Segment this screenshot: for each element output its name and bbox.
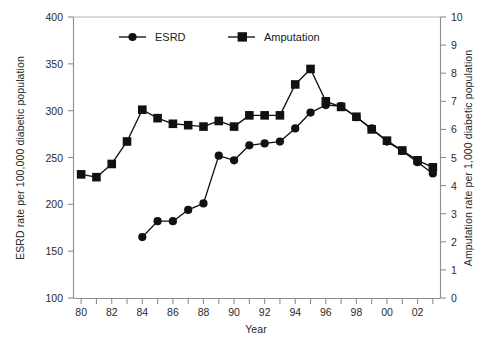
data-point-marker — [276, 111, 285, 120]
x-axis-tick-label: 00 — [381, 306, 393, 318]
series-amputation — [77, 65, 437, 182]
legend-label-esrd: ESRD — [155, 31, 186, 43]
x-axis-tick-label: 92 — [259, 306, 271, 318]
data-point-marker — [230, 156, 238, 164]
data-point-marker — [261, 139, 269, 147]
legend-entry-esrd: ESRD — [119, 31, 186, 43]
left-axis-tick-label: 300 — [45, 105, 63, 117]
data-point-marker — [230, 122, 239, 131]
data-point-marker — [429, 163, 438, 172]
data-point-marker — [352, 112, 361, 121]
data-point-marker — [215, 152, 223, 160]
data-point-marker — [184, 121, 193, 130]
data-point-marker — [154, 217, 162, 225]
data-point-marker — [398, 146, 407, 155]
right-axis-tick-label: 9 — [451, 39, 457, 51]
x-axis-tick-label: 82 — [106, 306, 118, 318]
data-point-marker — [367, 125, 376, 134]
dual-axis-line-chart: 100150200250300350400 012345678910 80828… — [0, 0, 489, 350]
data-point-marker — [92, 173, 101, 182]
x-axis-tick-label: 84 — [136, 306, 148, 318]
data-point-marker — [77, 170, 86, 179]
right-axis-tick-label: 1 — [451, 264, 457, 276]
x-axis-tick-label: 02 — [412, 306, 424, 318]
right-axis: 012345678910 — [441, 11, 463, 304]
x-axis-tick-label: 96 — [320, 306, 332, 318]
data-point-marker — [413, 156, 422, 165]
x-axis-tick-label: 90 — [228, 306, 240, 318]
data-point-marker — [291, 124, 299, 132]
data-point-marker — [199, 122, 208, 131]
data-point-marker — [169, 119, 178, 128]
plot-frame — [74, 17, 441, 299]
data-point-marker — [184, 206, 192, 214]
x-axis-tick-label: 98 — [351, 306, 363, 318]
data-point-marker — [123, 137, 132, 146]
legend-marker-circle-icon — [128, 33, 136, 41]
right-axis-tick-label: 0 — [451, 292, 457, 304]
right-axis-tick-label: 8 — [451, 67, 457, 79]
data-point-marker — [138, 105, 147, 114]
x-axis-tick-label: 80 — [75, 306, 87, 318]
left-axis-tick-label: 200 — [45, 198, 63, 210]
series-esrd — [138, 101, 437, 241]
legend-entry-amputation: Amputation — [228, 31, 320, 43]
left-axis-tick-label: 150 — [45, 245, 63, 257]
data-point-marker — [153, 114, 162, 123]
chart-legend: ESRD Amputation — [119, 31, 320, 43]
data-point-marker — [245, 111, 254, 120]
series-line-amputation — [81, 69, 433, 177]
data-point-marker — [306, 65, 315, 74]
data-point-marker — [214, 117, 223, 126]
right-axis-tick-label: 6 — [451, 123, 457, 135]
data-point-marker — [169, 217, 177, 225]
left-axis-tick-label: 400 — [45, 11, 63, 23]
data-point-marker — [245, 141, 253, 149]
data-point-marker — [337, 103, 346, 112]
right-axis-tick-label: 5 — [451, 152, 457, 164]
data-point-marker — [107, 160, 116, 169]
x-axis-tick-label: 86 — [167, 306, 179, 318]
data-point-marker — [260, 111, 269, 120]
data-point-marker — [199, 199, 207, 207]
x-axis-tick-label: 88 — [198, 306, 210, 318]
legend-marker-square-icon — [238, 32, 247, 41]
right-axis-title: Amputation rate per 1,000 diabetic popul… — [462, 50, 474, 266]
data-point-marker — [276, 137, 284, 145]
data-point-marker — [138, 233, 146, 241]
data-point-marker — [291, 80, 300, 89]
left-axis-tick-label: 100 — [45, 292, 63, 304]
right-axis-tick-label: 4 — [451, 180, 457, 192]
left-axis-title: ESRD rate per 100,000 diabetic populatio… — [14, 56, 26, 260]
data-point-marker — [306, 108, 314, 116]
left-axis-tick-label: 350 — [45, 58, 63, 70]
right-axis-tick-label: 2 — [451, 236, 457, 248]
right-axis-tick-label: 7 — [451, 95, 457, 107]
left-axis-tick-label: 250 — [45, 152, 63, 164]
left-axis: 100150200250300350400 — [45, 11, 73, 304]
right-axis-tick-label: 3 — [451, 208, 457, 220]
x-axis-title: Year — [245, 323, 267, 335]
data-point-marker — [383, 136, 392, 145]
x-axis: 808284868890929496980002 — [75, 299, 433, 319]
x-axis-tick-label: 94 — [289, 306, 301, 318]
series-layer — [77, 65, 437, 242]
right-axis-tick-label: 10 — [451, 11, 463, 23]
legend-label-amputation: Amputation — [264, 31, 320, 43]
data-point-marker — [322, 97, 331, 106]
